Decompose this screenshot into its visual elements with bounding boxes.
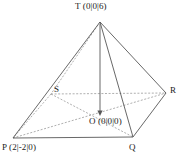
edge-S-P: [13, 94, 51, 138]
edge-S-R: [51, 93, 166, 94]
pyramid-diagram: T (0|0|6) S R O (0|0|0) P (2|-2|0) Q: [0, 0, 188, 162]
edge-P-Q: [13, 137, 133, 138]
edge-Q-R: [133, 93, 166, 137]
vertex-label-S: S: [54, 85, 59, 94]
height-axis-group: [97, 24, 102, 116]
vertex-label-R: R: [170, 86, 176, 95]
vertex-label-T: T (0|0|6): [75, 2, 107, 11]
vertex-label-Q: Q: [129, 143, 136, 152]
vertex-label-O: O (0|0|0): [89, 117, 122, 126]
pyramid-svg: [0, 0, 188, 162]
edge-T-P: [13, 22, 100, 138]
vertex-label-P: P (2|-2|0): [2, 143, 36, 152]
